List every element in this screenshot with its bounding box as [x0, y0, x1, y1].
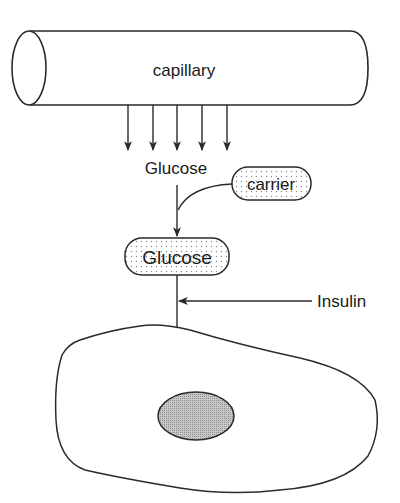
glucose-uptake-diagram: capillary Glucose carrier Glucose Insuli… [0, 0, 400, 503]
glucose-carrier-complex: Glucose [125, 238, 229, 275]
capillary-vessel: capillary [12, 31, 368, 105]
glucose-diffusion-arrows [128, 105, 227, 150]
capillary-label: capillary [153, 61, 216, 80]
insulin-label: Insulin [317, 292, 366, 311]
glucose-label: Glucose [145, 159, 207, 178]
cell-nucleus [158, 392, 234, 440]
carrier-node: carrier [232, 167, 311, 200]
capillary-opening [12, 31, 46, 105]
glucose-complex-label: Glucose [142, 247, 212, 268]
carrier-label: carrier [247, 175, 296, 194]
carrier-join-curve [178, 184, 232, 210]
